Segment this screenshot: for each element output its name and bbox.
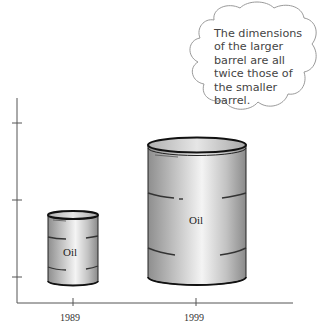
callout-line: twice those of xyxy=(214,67,314,80)
callout-line: the smaller xyxy=(214,81,314,94)
callout-line: barrel are all xyxy=(214,54,314,67)
callout-line: The dimensions xyxy=(214,27,314,40)
large-oil-barrel xyxy=(148,138,246,286)
small-barrel-label: Oil xyxy=(63,246,77,258)
x-label-1989: 1989 xyxy=(60,312,80,323)
large-barrel-label: Oil xyxy=(189,214,203,226)
x-label-1999: 1999 xyxy=(184,312,204,323)
callout-text: The dimensions of the larger barrel are … xyxy=(214,27,314,107)
callout-line: of the larger xyxy=(214,40,314,53)
callout-line: barrel. xyxy=(214,94,314,107)
